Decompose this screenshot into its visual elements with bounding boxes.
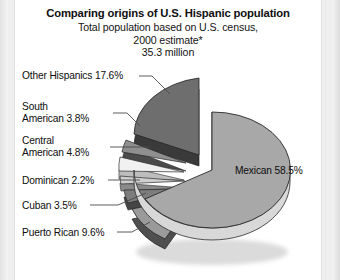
label-cuban: Cuban 3.5% xyxy=(22,200,77,212)
label-mexican: Mexican 58.5% xyxy=(235,165,303,176)
label-south-american: South American 3.8% xyxy=(22,101,89,124)
label-puerto-rican: Puerto Rican 9.6% xyxy=(22,227,104,239)
label-central-american: Central American 4.8% xyxy=(22,135,89,158)
pie-chart-figure: Comparing origins of U.S. Hispanic popul… xyxy=(0,0,340,280)
label-dominican: Dominican 2.2% xyxy=(22,175,94,187)
label-other-hispanics: Other Hispanics 17.6% xyxy=(22,70,123,82)
